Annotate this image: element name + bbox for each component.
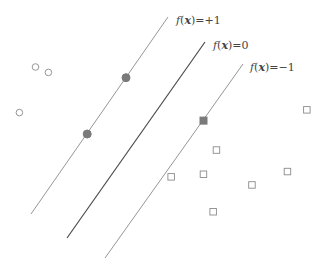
- negative-sample-square: [213, 147, 220, 154]
- positive-support-vector-circle: [83, 130, 91, 138]
- negative-margin-line: [105, 64, 243, 258]
- lines-layer: [31, 17, 243, 258]
- positive-sample-circle: [32, 64, 39, 71]
- negative-sample-square: [210, 209, 217, 216]
- negative-sample-square: [249, 182, 256, 189]
- positive-sample-circle: [45, 69, 52, 76]
- labels-layer: f(x)=+1 f(x)=0 f(x)=−1: [175, 14, 295, 74]
- label-positive-margin: f(x)=+1: [175, 14, 221, 27]
- positive-margin-line: [31, 17, 168, 214]
- positive-sample-circle: [16, 109, 23, 116]
- label-decision-boundary: f(x)=0: [212, 39, 248, 52]
- negative-sample-square: [304, 107, 311, 114]
- svm-diagram: f(x)=+1 f(x)=0 f(x)=−1: [0, 0, 323, 268]
- label-negative-margin: f(x)=−1: [249, 61, 295, 74]
- positive-support-vector-circle: [122, 74, 130, 82]
- negative-sample-square: [200, 171, 207, 178]
- negative-sample-square: [168, 174, 175, 181]
- svm-diagram-svg: f(x)=+1 f(x)=0 f(x)=−1: [0, 0, 323, 268]
- negative-support-vector-square: [200, 117, 207, 124]
- decision-boundary-line: [67, 42, 205, 238]
- negative-sample-square: [284, 168, 291, 175]
- points-layer: [16, 64, 310, 215]
